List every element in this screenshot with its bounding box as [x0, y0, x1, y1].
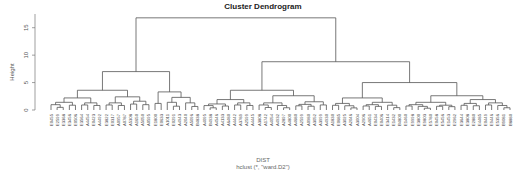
- leaf-label: A3004: [355, 113, 360, 126]
- leaf-label: A4454: [85, 113, 90, 126]
- leaf-label: E3822: [104, 113, 109, 126]
- leaf-label: A4095: [202, 113, 207, 126]
- leaf-label: A4054: [269, 113, 274, 126]
- leaf-label: A6480: [226, 113, 231, 126]
- leaf-label: E2962: [452, 113, 457, 126]
- leaf-label: E4485: [477, 113, 482, 126]
- leaf-label: A4492: [97, 113, 102, 126]
- leaf-label: E0455: [49, 113, 54, 126]
- dendrogram-chart: Cluster Dendrogram 051015 Height E0455E2…: [0, 0, 526, 181]
- leaf-label: E3414: [385, 113, 390, 126]
- y-axis-label: Height: [9, 63, 15, 81]
- leaf-label: A4442: [232, 113, 237, 126]
- leaf-label: E1800: [153, 113, 158, 126]
- leaf-label: A4932: [275, 113, 280, 126]
- leaf-label: A2599: [299, 113, 304, 126]
- y-tick-label: 0: [23, 108, 29, 112]
- leaf-label: A1011: [165, 113, 170, 125]
- leaf-label: E3368: [61, 113, 66, 126]
- leaf-label: E0633: [159, 113, 164, 126]
- leaf-label: E0406: [379, 113, 384, 126]
- leaf-label: B8880: [508, 113, 513, 126]
- leaf-label: E0685: [336, 113, 341, 126]
- leaf-label: E0434: [373, 113, 378, 126]
- leaf-label: A4943: [177, 113, 182, 126]
- leaf-label: E0423: [91, 113, 96, 126]
- leaf-label: A1830: [330, 113, 335, 126]
- leaf-label: A2897: [281, 113, 286, 126]
- leaf-label: E9803: [422, 113, 427, 126]
- leaf-label: E0317: [110, 113, 115, 126]
- leaf-label: E2880: [471, 113, 476, 126]
- dendrogram-branches: [51, 18, 510, 110]
- leaf-label: A0787: [122, 113, 127, 126]
- leaf-label: A4800: [287, 113, 292, 126]
- leaf-label: E1460: [403, 113, 408, 126]
- y-tick-label: 15: [23, 24, 29, 31]
- leaf-label: E0506: [73, 113, 78, 126]
- leaf-label: E3644: [459, 113, 464, 126]
- leaf-label: A2599: [244, 113, 249, 126]
- leaf-label: A4445: [250, 113, 255, 126]
- leaf-label: A3789: [238, 113, 243, 126]
- leaf-label: B4800: [397, 113, 402, 126]
- leaf-label: B4938: [208, 113, 213, 126]
- leaf-label: E2599: [55, 113, 60, 126]
- leaf-label: B4838: [195, 113, 200, 126]
- leaf-label: E3808: [465, 113, 470, 126]
- leaf-label: A0595: [146, 113, 151, 126]
- leaf-label: A4930: [324, 113, 329, 126]
- leaf-label: E1453: [446, 113, 451, 126]
- leaf-label: A1742: [263, 113, 268, 126]
- leaf-labels: E0455E2599E3368E3456E0506E3564A4454E0423…: [49, 113, 513, 126]
- leaf-label: E0291: [171, 113, 176, 126]
- leaf-label: E3800: [416, 113, 421, 126]
- leaf-label: A5096: [189, 113, 194, 126]
- leaf-label: A0957: [116, 113, 121, 126]
- leaf-label: A4133: [220, 113, 225, 126]
- leaf-label: A2906: [361, 113, 366, 126]
- leaf-label: E3456: [67, 113, 72, 126]
- leaf-label: A0980: [306, 113, 311, 126]
- leaf-label: E3564: [79, 113, 84, 126]
- leaf-label: A4546: [214, 113, 219, 126]
- x-axis-label: DIST: [256, 157, 270, 163]
- leaf-label: B9081: [501, 113, 506, 126]
- leaf-label: A5308: [128, 113, 133, 126]
- leaf-label: A1650: [134, 113, 139, 126]
- leaf-label: A3052: [312, 113, 317, 126]
- leaf-label: A3808: [257, 113, 262, 126]
- y-tick-label: 5: [23, 80, 29, 84]
- leaf-label: E9446: [489, 113, 494, 126]
- leaf-label: A4680: [293, 113, 298, 126]
- leaf-label: E9998: [410, 113, 415, 126]
- leaf-label: A2040: [183, 113, 188, 126]
- leaf-label: E1432: [391, 113, 396, 126]
- leaf-label: A5050: [140, 113, 145, 126]
- leaf-label: E5780: [428, 113, 433, 126]
- method-subtitle: hclust (*, "ward.D2"): [236, 164, 290, 170]
- leaf-label: E0449: [483, 113, 488, 126]
- leaf-label: A4651: [367, 113, 372, 126]
- leaf-label: A3999: [318, 113, 323, 126]
- y-axis: 051015 Height: [9, 14, 35, 112]
- leaf-label: E5456: [440, 113, 445, 126]
- leaf-label: A2046: [348, 113, 353, 126]
- leaf-label: E0458: [434, 113, 439, 126]
- y-tick-label: 10: [23, 51, 29, 58]
- chart-title: Cluster Dendrogram: [224, 2, 301, 11]
- leaf-label: A3025: [342, 113, 347, 126]
- leaf-label: E5356: [495, 113, 500, 126]
